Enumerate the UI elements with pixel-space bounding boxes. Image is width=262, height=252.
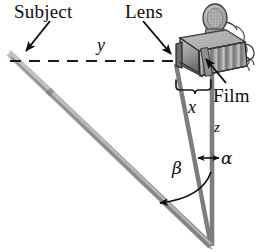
subject-bar bbox=[9, 51, 212, 249]
label-distance-x: x bbox=[188, 98, 196, 116]
subject-leader-arrow bbox=[26, 21, 50, 51]
label-lens: Lens bbox=[125, 2, 163, 21]
camera-optics-diagram: Subject Lens Film y x z α β bbox=[0, 0, 262, 252]
label-distance-y: y bbox=[97, 36, 105, 54]
diagram-canvas bbox=[0, 0, 262, 252]
camera-illustration bbox=[176, 4, 254, 77]
label-film: Film bbox=[213, 86, 250, 105]
label-angle-alpha: α bbox=[221, 150, 233, 167]
label-subject: Subject bbox=[14, 2, 72, 21]
lens-leader-arrow bbox=[143, 21, 171, 54]
label-angle-beta: β bbox=[172, 160, 182, 177]
camera-flash-icon bbox=[203, 4, 237, 32]
subject-bar-joint bbox=[48, 90, 52, 94]
label-distance-z: z bbox=[214, 120, 220, 135]
